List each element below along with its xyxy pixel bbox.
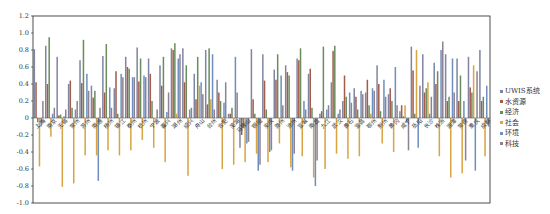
bar (186, 65, 188, 118)
bar (288, 76, 290, 119)
y-tick-label: -1.0 (16, 199, 29, 207)
bar (332, 51, 334, 118)
bar (422, 54, 424, 118)
bar (447, 101, 449, 118)
y-tick-label: 1.2 (19, 12, 29, 20)
bar (419, 86, 421, 118)
bar (132, 77, 134, 118)
bar (321, 111, 323, 118)
legend-label: 社会 (505, 118, 519, 129)
bar (252, 99, 254, 118)
bar (425, 88, 427, 118)
bar (383, 80, 385, 118)
bar (98, 118, 100, 181)
bar (431, 97, 433, 118)
bar (473, 65, 475, 118)
legend-swatch (500, 142, 503, 145)
bar (471, 93, 473, 119)
bar (140, 59, 142, 119)
bar (182, 48, 184, 118)
bar (106, 44, 108, 118)
bar (79, 60, 81, 118)
bar (437, 71, 439, 118)
bar (114, 88, 116, 118)
bar (395, 67, 397, 118)
bar (264, 81, 266, 118)
bar (315, 118, 317, 186)
bar (280, 76, 282, 119)
bar (481, 101, 483, 118)
bar (445, 54, 447, 118)
bar (378, 84, 380, 118)
bar (403, 116, 405, 118)
plot-frame (33, 16, 490, 203)
legend-label: 水资源 (505, 97, 526, 108)
bar (115, 71, 117, 118)
bar (92, 98, 94, 118)
bar (88, 91, 90, 118)
bar (376, 65, 378, 118)
bar (184, 82, 186, 118)
bar (205, 50, 207, 118)
bar (163, 57, 165, 118)
bar (468, 57, 470, 118)
bar (91, 86, 93, 118)
bar (339, 110, 341, 119)
bar (442, 42, 444, 119)
y-tick-label: 0.2 (19, 97, 29, 105)
y-tick-label: 0.8 (19, 46, 29, 54)
bar (172, 50, 174, 118)
bar (35, 82, 37, 118)
bar (424, 93, 426, 119)
chart-legend: UWIS系统 水资源 经济 社会 环境 科技 (500, 86, 540, 149)
bar (309, 69, 311, 118)
bar (48, 37, 50, 118)
y-tick-label: 1.0 (19, 29, 29, 37)
bar (323, 47, 325, 118)
bar (357, 110, 359, 119)
bar (486, 86, 488, 118)
bar (210, 99, 212, 118)
bar (328, 105, 330, 118)
bar (230, 114, 232, 118)
legend-item-economy: 经济 (500, 107, 540, 118)
bar (308, 74, 310, 118)
bar (385, 97, 387, 118)
bar (300, 48, 302, 118)
bar (287, 72, 289, 118)
bar (251, 49, 253, 118)
y-tick-label: -0.4 (16, 148, 29, 156)
legend-item-society: 社会 (500, 118, 540, 129)
legend-item-environment: 环境 (500, 128, 540, 139)
bar (362, 94, 364, 118)
bar (128, 69, 130, 118)
bar (81, 83, 83, 118)
bar (469, 87, 471, 118)
bar (120, 74, 122, 118)
bar (401, 105, 403, 118)
bar (134, 77, 136, 118)
bar (195, 99, 197, 118)
bar (380, 111, 382, 118)
bar (331, 82, 333, 118)
y-axis-labels: 1.21.00.80.60.40.20-0.2-0.4-0.6-0.8-1.0 (16, 12, 29, 207)
bar (344, 76, 346, 119)
bar (411, 47, 413, 118)
bar (159, 65, 161, 118)
bar (334, 46, 336, 118)
x-tick-label: 重庆 (467, 116, 481, 130)
bar (212, 54, 214, 118)
bar (145, 77, 147, 118)
bar (274, 70, 276, 118)
bar (435, 84, 437, 118)
bar (47, 84, 49, 118)
bar (414, 114, 416, 118)
bar (370, 114, 372, 118)
x-tick-label: 长沙 (422, 116, 436, 130)
bar (365, 93, 367, 119)
legend-label: UWIS系统 (505, 86, 540, 97)
bar (191, 108, 193, 118)
bar (427, 82, 429, 118)
bar (208, 48, 210, 118)
bar (71, 108, 73, 118)
